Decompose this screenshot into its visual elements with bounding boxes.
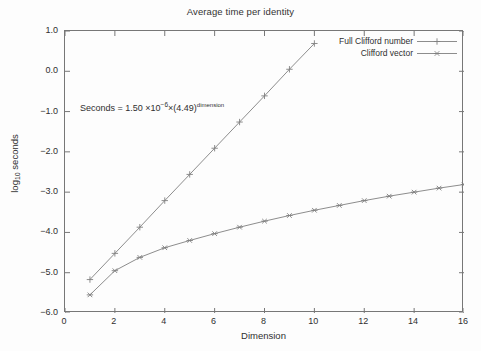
series-1: [87, 182, 464, 297]
equation-dimension-exponent: dimension: [197, 102, 224, 108]
chart-figure: Average time per identity 1.00.0−1.0−2.0…: [0, 0, 481, 351]
equation-prefix: Seconds = 1.50: [80, 103, 143, 113]
equation-paren: (4.49): [173, 103, 197, 113]
y-axis-tick-label: −1.0: [14, 106, 58, 116]
series-line: [90, 43, 314, 279]
legend-sample-plus: [417, 36, 457, 47]
x-axis-tick-label: 16: [448, 316, 478, 326]
x-axis-tick-label: 8: [249, 316, 279, 326]
y-axis-tick-label: −2.0: [14, 146, 58, 156]
x-axis-tick-label: 2: [99, 316, 129, 326]
series-line: [90, 184, 464, 294]
series-0: [87, 40, 318, 282]
legend-sample-asterisk: [417, 48, 457, 59]
x-axis-tick-label: 10: [298, 316, 328, 326]
y-axis-label-tail: seconds: [9, 134, 20, 172]
y-axis-tick-label: 1.0: [14, 25, 58, 35]
plot-area: [64, 30, 463, 312]
x-axis-label: Dimension: [64, 330, 463, 341]
fit-equation-annotation: Seconds = 1.50 ×10−6×(4.49)dimension: [80, 101, 224, 113]
legend-label: Clifford vector: [361, 48, 413, 58]
legend-item: Clifford vector: [332, 47, 457, 59]
y-axis-tick-label: 0.0: [14, 65, 58, 75]
y-axis-tick-label: −5.0: [14, 267, 58, 277]
equation-exponent: −6: [161, 101, 168, 108]
x-axis-tick-label: 0: [49, 316, 79, 326]
x-axis-tick-label: 6: [199, 316, 229, 326]
y-axis-tick-label: −4.0: [14, 226, 58, 236]
chart-title: Average time per identity: [0, 6, 481, 17]
x-axis-tick-label: 12: [348, 316, 378, 326]
x-axis-tick-label: 14: [398, 316, 428, 326]
y-axis-tick-label: −3.0: [14, 186, 58, 196]
equation-base: 10: [151, 103, 161, 113]
plot-canvas: [65, 31, 464, 313]
legend-label: Full Clifford number: [339, 36, 413, 46]
y-axis-label-base: log: [9, 180, 20, 193]
y-axis-label: log10 seconds: [9, 119, 20, 209]
legend-item: Full Clifford number: [332, 35, 457, 47]
y-axis-label-subscript: 10: [14, 172, 21, 180]
x-axis-tick-label: 4: [149, 316, 179, 326]
chart-legend: Full Clifford numberClifford vector: [330, 31, 461, 63]
